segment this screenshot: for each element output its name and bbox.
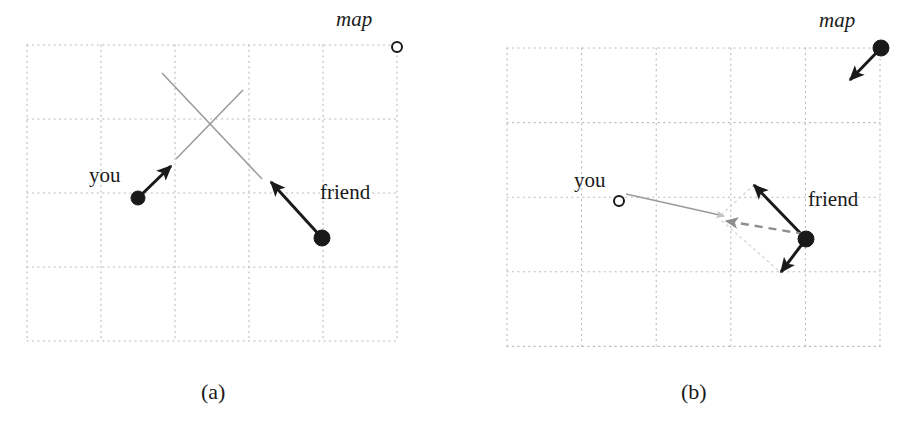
panel-a-you-label: you [89,165,121,186]
panel-a-markers [131,42,402,246]
panel-b-markers [614,40,889,247]
you-marker [614,196,624,206]
map-marker [392,42,402,52]
figure-panel-pair: map you friend (a) map you friend (b) [0,0,908,422]
panel-a-friend-label: friend [320,182,370,203]
panel-b-map-label: map [819,10,855,31]
friend-heading-vector-up [754,185,806,239]
panel-b-you-label: you [574,170,606,191]
you-marker [131,191,145,205]
friend-heading-vector [271,182,322,238]
panel-a-map-label: map [336,9,372,30]
map-marker [873,40,889,56]
parallelogram-edge-upper [722,185,754,214]
friend-sight-line [162,73,262,179]
panel-a-sight-lines [162,73,262,179]
panel-a-vectors [138,166,322,238]
friend-marker [314,230,330,246]
friend-marker [798,231,814,247]
figure-canvas [0,0,908,422]
panel-b-caption: (b) [681,381,707,403]
panel-b-friend-label: friend [808,189,858,210]
panel-a-caption: (a) [201,381,225,403]
